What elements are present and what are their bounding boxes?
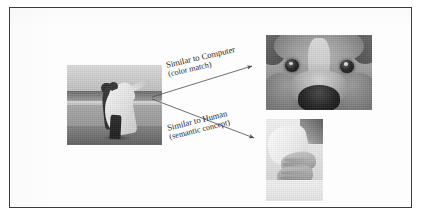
dog-left-eye-glint <box>289 62 293 66</box>
figure-root: Similar to Computer (color match) Simila… <box>0 0 423 218</box>
dog-right-eye-glint <box>344 62 348 66</box>
white-dress-fabric <box>266 180 323 201</box>
dog-right-eye <box>340 60 354 73</box>
finger-crease <box>281 171 310 175</box>
dog-nose <box>298 85 340 111</box>
dog-left-eye <box>285 59 299 72</box>
label-similar-to-human: Similar to Human (semantic concept) <box>166 108 231 142</box>
result-photo-dog-face <box>266 35 372 110</box>
result-photo-clasped-hands <box>266 119 323 201</box>
finger-crease <box>283 162 310 166</box>
query-photo-couple-on-beach <box>67 65 162 145</box>
couple-ground-shadow <box>101 135 133 141</box>
figure-border-frame: Similar to Computer (color match) Simila… <box>9 7 412 208</box>
label-similar-to-computer: Similar to Computer (color match) <box>165 44 238 79</box>
finger-crease <box>284 158 310 162</box>
